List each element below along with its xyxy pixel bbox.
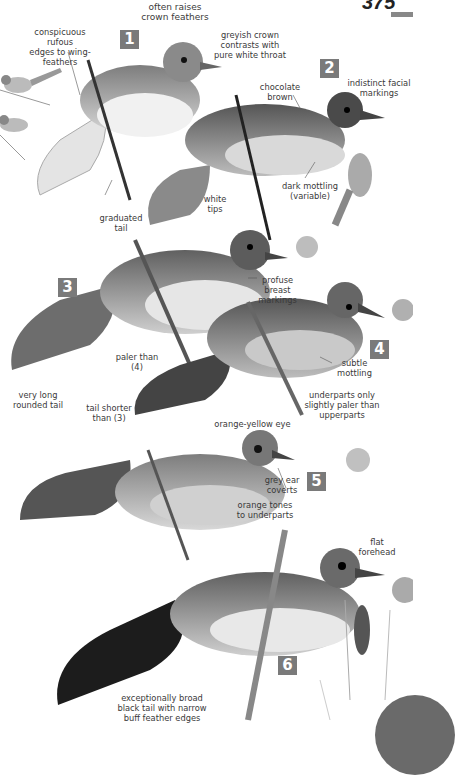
small-bird-1-icon <box>0 68 62 160</box>
annotation-line: coverts <box>262 485 302 495</box>
annotation-line: buff feather edges <box>112 713 212 723</box>
annotation-line: breast <box>255 285 300 295</box>
annotation-line: indistinct facial <box>345 78 413 88</box>
annotation-chocolate: chocolate brown <box>255 82 305 102</box>
bird-6-illustration <box>57 530 385 720</box>
annotation-line: subtle <box>332 358 377 368</box>
annotation-rufous-edges: conspicuous rufous edges to wing- feathe… <box>20 27 100 67</box>
annotation-white-tips: white tips <box>200 194 230 214</box>
annotation-line: dark mottling <box>272 181 348 191</box>
annotation-line: tips <box>200 204 230 214</box>
plate-3-badge: 3 <box>58 278 77 297</box>
annotation-line: markings <box>345 88 413 98</box>
annotation-line: very long <box>8 390 68 400</box>
annotation-line: forehead <box>352 547 402 557</box>
plate-4-badge: 4 <box>370 340 389 359</box>
bird-5-illustration <box>20 430 295 560</box>
annotation-line: rounded tail <box>8 400 68 410</box>
annotation-line: black tail with narrow <box>112 703 212 713</box>
annotation-line: exceptionally broad <box>112 693 212 703</box>
annotation-line: contrasts with <box>210 40 290 50</box>
annotation-orange-yellow-eye: orange-yellow eye <box>210 419 295 429</box>
annotation-crown-feathers: often raises crown feathers <box>140 2 210 22</box>
annotation-dark-mottling: dark mottling (variable) <box>272 181 348 201</box>
annotation-line: profuse <box>255 275 300 285</box>
annotation-very-long-tail: very long rounded tail <box>8 390 68 410</box>
annotation-flat-forehead: flat forehead <box>352 537 402 557</box>
annotation-line: to underparts <box>235 510 295 520</box>
annotation-line: grey ear <box>262 475 302 485</box>
annotation-line: white <box>200 194 230 204</box>
annotation-line: (4) <box>112 362 162 372</box>
annotation-line: edges to wing- <box>20 47 100 57</box>
annotation-facial-markings: indistinct facial markings <box>345 78 413 98</box>
annotation-tail-shorter: tail shorter than (3) <box>84 403 134 423</box>
annotation-broad-tail: exceptionally broad black tail with narr… <box>112 693 212 723</box>
annotation-line: pure white throat <box>210 50 290 60</box>
annotation-line: greyish crown <box>210 30 290 40</box>
annotation-line: tail <box>96 223 146 233</box>
annotation-line: tail shorter <box>84 403 134 413</box>
egg-1-icon <box>296 236 318 258</box>
annotation-line: conspicuous rufous <box>20 27 100 47</box>
annotation-line: feathers <box>20 57 100 67</box>
annotation-paler-than: paler than (4) <box>112 352 162 372</box>
annotation-greyish-crown: greyish crown contrasts with pure white … <box>210 30 290 60</box>
annotation-subtle-mottling: subtle mottling <box>332 358 377 378</box>
annotation-line: flat <box>352 537 402 547</box>
annotation-underparts: underparts only slightly paler than uppe… <box>303 390 381 420</box>
annotation-line: upperparts <box>303 410 381 420</box>
plate-2-badge: 2 <box>320 59 339 78</box>
annotation-graduated-tail: graduated tail <box>96 213 146 233</box>
annotation-line: often raises <box>140 2 210 12</box>
plate-5-badge: 5 <box>307 472 326 491</box>
annotation-line: orange-yellow eye <box>210 419 295 429</box>
annotation-line: underparts only <box>303 390 381 400</box>
annotation-line: mottling <box>332 368 377 378</box>
annotation-line: (variable) <box>272 191 348 201</box>
egg-4-icon <box>392 577 413 603</box>
egg-3-icon <box>346 448 370 472</box>
plate-1-badge: 1 <box>120 30 139 49</box>
annotation-grey-ear-coverts: grey ear coverts <box>262 475 302 495</box>
annotation-line: than (3) <box>84 413 134 423</box>
annotation-line: paler than <box>112 352 162 362</box>
annotation-line: orange tones <box>235 500 295 510</box>
annotation-profuse-markings: profuse breast markings <box>255 275 300 305</box>
egg-2-icon <box>392 299 413 321</box>
annotation-line: slightly paler than <box>303 400 381 410</box>
annotation-orange-tones: orange tones to underparts <box>235 500 295 520</box>
corner-tab-marker <box>375 695 455 775</box>
annotation-line: markings <box>255 295 300 305</box>
annotation-line: crown feathers <box>140 12 210 22</box>
plate-6-badge: 6 <box>278 656 297 675</box>
annotation-line: graduated <box>96 213 146 223</box>
annotation-line: chocolate <box>255 82 305 92</box>
annotation-line: brown <box>255 92 305 102</box>
